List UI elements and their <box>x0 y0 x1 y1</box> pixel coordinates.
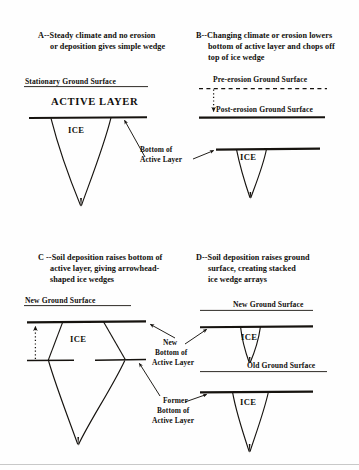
figure-sheet: A--Steady climate and no erosion or depo… <box>0 0 359 470</box>
panel-d-lower-ice-label: ICE <box>240 397 256 407</box>
panel-d-lower-bottom-arrow <box>185 394 207 402</box>
panel-a-bottom-annotation-line2: Active Layer <box>140 155 183 164</box>
panel-d-lower-bottom-line <box>200 392 313 393</box>
panel-c-ice-label: ICE <box>70 334 86 344</box>
panel-b-post-erosion-label: Post-erosion Ground Surface <box>216 105 313 114</box>
panel-d-new-ground-surface-label: New Ground Surface <box>233 300 304 309</box>
panel-c-wedge-lower-left-edge <box>49 361 78 444</box>
panel-c-new-bottom-arrow <box>150 324 175 338</box>
panel-b-diagram: Pre-erosion Ground Surface Post-erosion … <box>193 75 327 200</box>
panel-a-bottom-annotation-line1: Bottom of <box>140 145 173 154</box>
panel-d-old-ground-surface-label: Old Ground Surface <box>247 361 316 370</box>
panel-a-diagram: Stationary Ground Surface ACTIVE LAYER I… <box>24 77 183 207</box>
new-bottom-annotation-line2: Bottom of <box>155 348 188 357</box>
panel-a-wedge-right-edge <box>81 118 111 206</box>
new-bottom-annotation-line1: New <box>163 338 178 347</box>
panel-a-active-layer-label: ACTIVE LAYER <box>51 96 138 107</box>
shared-annotations: New Bottom of Active Layer Former Bottom… <box>152 338 195 425</box>
panel-c-former-bottom-line-right <box>95 360 146 361</box>
page-bottom-edge <box>0 464 359 465</box>
panel-a-ground-surface-label: Stationary Ground Surface <box>25 77 116 86</box>
former-bottom-annotation-line3: Active Layer <box>152 416 195 425</box>
panel-c-former-bottom-arrow <box>139 363 160 396</box>
panel-c-wedge-tip <box>77 437 79 446</box>
panel-d-upper-ice-label: ICE <box>241 332 257 342</box>
panel-c-wedge-upper-right-edge <box>104 322 126 360</box>
panel-c-wedge-lower-right-edge <box>79 360 125 444</box>
diagram-canvas: Stationary Ground Surface ACTIVE LAYER I… <box>0 0 359 470</box>
former-bottom-annotation-line2: Bottom of <box>157 406 190 415</box>
panel-b-bottom-annotation-arrow <box>193 151 214 159</box>
panel-a-bottom-of-active-layer-line <box>29 117 147 118</box>
panel-d-upper-bottom-line <box>200 326 313 327</box>
panel-b-bottom-of-active-layer-line <box>216 149 320 150</box>
panel-c-new-bottom-line <box>27 321 146 322</box>
new-bottom-annotation-line3: Active Layer <box>152 358 195 367</box>
panel-d-diagram: New Ground Surface ICE Old Ground Surfac… <box>185 300 327 453</box>
panel-d-lower-wedge-tip <box>249 444 251 453</box>
panel-b-ice-label: ICE <box>240 152 256 162</box>
panel-a-wedge-tip <box>80 198 82 207</box>
panel-a-ice-label: ICE <box>68 125 84 135</box>
panel-b-pre-erosion-label: Pre-erosion Ground Surface <box>213 75 308 84</box>
panel-c-ground-surface-label: New Ground Surface <box>25 296 96 305</box>
panel-c-wedge-upper-left-edge <box>48 322 62 360</box>
panel-d-upper-bottom-arrow <box>185 329 207 344</box>
former-bottom-annotation-line1: Former <box>163 396 188 405</box>
